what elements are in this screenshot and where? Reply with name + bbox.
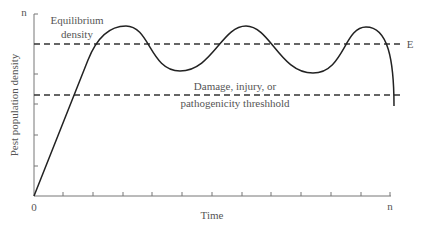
diagram-canvas: n Pest population density 0 Time n Equil…: [0, 0, 422, 229]
x-axis-end-label: n: [387, 200, 393, 212]
equilibrium-end-label: E: [407, 38, 414, 50]
threshold-label-line2: pathogenicity threshhold: [180, 97, 290, 109]
population-curve: [34, 26, 394, 196]
x-axis-origin-label: 0: [31, 201, 37, 213]
equilibrium-label-line1: Equilibrium: [50, 14, 104, 26]
threshold-label-line1: Damage, injury, or: [194, 80, 277, 92]
x-axis-label: Time: [201, 209, 224, 221]
y-axis-top-label: n: [21, 6, 27, 18]
y-axis-label: Pest population density: [8, 53, 20, 156]
equilibrium-label-line2: density: [61, 28, 93, 40]
